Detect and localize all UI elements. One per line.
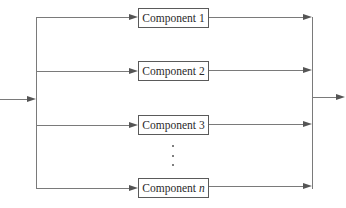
branch-in-n [36,188,129,189]
input-split-bus [36,17,37,189]
ellipsis-dot-3 [172,164,174,166]
output-line [312,97,338,98]
component-label-3: Component [142,119,196,131]
branch-out-3 [209,124,303,125]
component-label-1: Component [142,12,196,24]
ellipsis-dot-1 [172,145,174,147]
ellipsis-dot-2 [172,155,174,157]
component-box-n: Component n [138,178,209,198]
output-merge-bus [312,17,313,189]
branch-in-2 [36,71,129,72]
component-index-n: n [199,182,205,194]
component-box-2: Component 2 [138,61,209,81]
input-arrowhead-icon [27,96,36,102]
branch-in-arrowhead-2-icon [129,68,138,74]
branch-out-arrowhead-2-icon [303,67,312,73]
input-line [0,99,28,100]
parallel-system-diagram: Component 1 Component 2 Component 3 Comp… [0,0,346,208]
branch-in-arrowhead-n-icon [129,185,138,191]
component-box-3: Component 3 [138,115,209,135]
branch-out-n [209,186,303,187]
component-box-1: Component 1 [138,8,209,28]
branch-out-arrowhead-n-icon [303,183,312,189]
component-label-2: Component [142,65,196,77]
branch-in-1 [36,17,129,18]
output-arrowhead-icon [336,94,345,100]
component-label-n: Component [142,182,196,194]
branch-in-arrowhead-3-icon [129,122,138,128]
branch-in-arrowhead-1-icon [129,14,138,20]
branch-out-arrowhead-3-icon [303,121,312,127]
component-index-3: 3 [199,119,205,131]
component-index-2: 2 [199,65,205,77]
branch-out-1 [209,17,303,18]
component-index-1: 1 [199,12,205,24]
branch-out-arrowhead-1-icon [303,14,312,20]
branch-out-2 [209,70,303,71]
branch-in-3 [36,125,129,126]
